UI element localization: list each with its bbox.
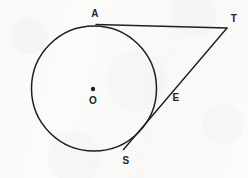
- geometry-figure: A T E S O: [0, 0, 248, 178]
- label-point-t: T: [231, 14, 237, 24]
- geometry-canvas: [0, 0, 248, 178]
- label-point-o: O: [89, 96, 97, 106]
- center-point-o-dot: [91, 87, 95, 91]
- tangent-segment-at: [96, 25, 227, 29]
- label-point-s: S: [123, 156, 130, 166]
- label-point-a: A: [91, 9, 98, 19]
- label-point-e: E: [173, 93, 180, 103]
